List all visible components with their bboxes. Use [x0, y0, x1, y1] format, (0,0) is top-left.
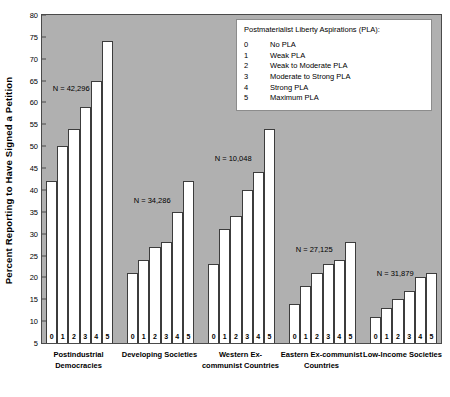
- legend-entries: 0No PLA1Weak PLA2Weak to Moderate PLA3Mo…: [244, 40, 424, 104]
- y-axis-tick-label: 35: [30, 207, 42, 216]
- bar-category-label: 3: [162, 333, 171, 340]
- bar[interactable]: 4: [334, 260, 345, 343]
- y-axis-tick-label: 5: [34, 339, 42, 348]
- bar-category-label: 0: [128, 333, 137, 340]
- bar[interactable]: 2: [230, 216, 241, 343]
- legend-entry-label: Strong PLA: [270, 83, 424, 94]
- bar-category-label: 4: [416, 333, 425, 340]
- bar[interactable]: 3: [161, 242, 172, 343]
- y-axis-tick-label: 15: [30, 295, 42, 304]
- bar[interactable]: 4: [91, 81, 102, 343]
- bar[interactable]: 2: [68, 129, 79, 343]
- bar[interactable]: 0: [208, 264, 219, 343]
- legend-entry: 4Strong PLA: [244, 83, 424, 94]
- bar-column[interactable]: 1: [219, 15, 230, 343]
- bar[interactable]: 4: [415, 277, 426, 343]
- y-axis-tick-label: 45: [30, 164, 42, 173]
- y-axis-title: Percent Reporting to Have Signed a Petit…: [0, 0, 18, 360]
- bar-category-label: 2: [231, 333, 240, 340]
- legend-entry-code: 1: [244, 51, 270, 62]
- bar[interactable]: 2: [311, 273, 322, 343]
- bar[interactable]: 4: [172, 212, 183, 343]
- y-axis-tick-label: 75: [30, 32, 42, 41]
- bar-column[interactable]: 4: [91, 15, 102, 343]
- bar-group-bars: 012345: [127, 15, 194, 343]
- y-axis-tick-label: 20: [30, 273, 42, 282]
- bar[interactable]: 5: [426, 273, 437, 343]
- bar-category-label: 0: [47, 333, 56, 340]
- group-label-line: Democracies: [31, 361, 126, 372]
- bar[interactable]: 3: [80, 107, 91, 343]
- bar[interactable]: 1: [381, 308, 392, 343]
- bar-column[interactable]: 3: [161, 15, 172, 343]
- bar-category-label: 4: [254, 333, 263, 340]
- bar[interactable]: 4: [253, 172, 264, 343]
- legend-entry: 3Moderate to Strong PLA: [244, 72, 424, 83]
- y-axis-tick-label: 10: [30, 317, 42, 326]
- sample-size-label: N = 27,125: [296, 245, 333, 254]
- y-axis-title-text: Percent Reporting to Have Signed a Petit…: [4, 76, 15, 284]
- y-axis-tick-label: 55: [30, 120, 42, 129]
- bar-column[interactable]: 3: [80, 15, 91, 343]
- y-axis-tick-label: 30: [30, 229, 42, 238]
- bar[interactable]: 0: [370, 317, 381, 343]
- legend-entry-code: 3: [244, 72, 270, 83]
- bar[interactable]: 5: [264, 129, 275, 343]
- bar-category-label: 3: [243, 333, 252, 340]
- bar-category-label: 3: [405, 333, 414, 340]
- legend-entry-label: Moderate to Strong PLA: [270, 72, 424, 83]
- bar-column[interactable]: 1: [138, 15, 149, 343]
- bar-category-label: 4: [173, 333, 182, 340]
- legend-entry-code: 0: [244, 40, 270, 51]
- sample-size-label: N = 10,048: [215, 154, 252, 163]
- bar[interactable]: 5: [345, 242, 356, 343]
- bar[interactable]: 2: [149, 247, 160, 343]
- legend-entry: 0No PLA: [244, 40, 424, 51]
- bar[interactable]: 1: [219, 229, 230, 343]
- bar-category-label: 0: [371, 333, 380, 340]
- bar-category-label: 2: [69, 333, 78, 340]
- y-axis-tick-label: 25: [30, 251, 42, 260]
- bar[interactable]: 5: [183, 181, 194, 343]
- bar-column[interactable]: 2: [68, 15, 79, 343]
- legend: Postmaterialist Liberty Aspirations (PLA…: [236, 19, 432, 111]
- bar-category-label: 5: [103, 333, 112, 340]
- bar-column[interactable]: 2: [149, 15, 160, 343]
- legend-entry-code: 4: [244, 83, 270, 94]
- bar-column[interactable]: 1: [57, 15, 68, 343]
- bar[interactable]: 0: [46, 181, 57, 343]
- bar-column[interactable]: 0: [127, 15, 138, 343]
- bar-group: 012345N = 42,296: [46, 15, 113, 343]
- bar[interactable]: 1: [138, 260, 149, 343]
- bar-column[interactable]: 5: [183, 15, 194, 343]
- bar-column[interactable]: 0: [208, 15, 219, 343]
- bar[interactable]: 3: [242, 190, 253, 343]
- bar[interactable]: 1: [57, 146, 68, 343]
- bar-column[interactable]: 4: [172, 15, 183, 343]
- legend-entry: 1Weak PLA: [244, 51, 424, 62]
- bar[interactable]: 0: [127, 273, 138, 343]
- y-axis-tick-label: 50: [30, 142, 42, 151]
- bar-category-label: 4: [92, 333, 101, 340]
- bar[interactable]: 0: [289, 304, 300, 343]
- bar[interactable]: 2: [392, 299, 403, 343]
- y-axis-tick-label: 65: [30, 76, 42, 85]
- bar-category-label: 5: [427, 333, 436, 340]
- bar[interactable]: 1: [300, 286, 311, 343]
- bar[interactable]: 3: [404, 291, 415, 343]
- group-label-line: Low-Income Societies: [355, 350, 450, 361]
- legend-entry-code: 5: [244, 93, 270, 104]
- bar-group: 012345N = 34,286: [127, 15, 194, 343]
- y-axis-tick-label: 70: [30, 54, 42, 63]
- bar-column[interactable]: 0: [46, 15, 57, 343]
- bar-column[interactable]: 5: [102, 15, 113, 343]
- legend-title: Postmaterialist Liberty Aspirations (PLA…: [244, 25, 424, 34]
- sample-size-label: N = 42,296: [53, 84, 90, 93]
- legend-entry: 2Weak to Moderate PLA: [244, 61, 424, 72]
- group-label: Low-Income Societies: [355, 350, 450, 361]
- bar[interactable]: 5: [102, 41, 113, 343]
- bar-category-label: 1: [139, 333, 148, 340]
- bar[interactable]: 3: [323, 264, 334, 343]
- bar-group-bars: 012345: [46, 15, 113, 343]
- sample-size-label: N = 31,879: [377, 269, 414, 278]
